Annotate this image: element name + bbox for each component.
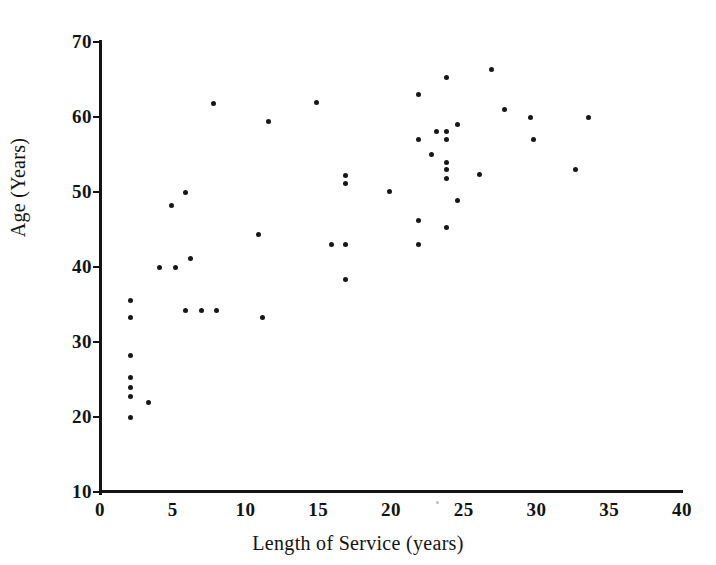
data-point — [128, 394, 133, 399]
x-axis-tick-label: 10 — [236, 500, 256, 519]
data-point — [531, 137, 536, 142]
data-point — [183, 190, 188, 195]
data-point — [199, 308, 204, 313]
data-point — [444, 167, 449, 172]
data-point — [343, 242, 348, 247]
x-axis-tick-label: 20 — [381, 500, 401, 519]
data-point — [211, 101, 216, 106]
y-axis-tick-labels: 10203040506070 — [44, 0, 92, 565]
data-point — [444, 160, 449, 165]
y-axis-tick-label: 40 — [72, 257, 92, 276]
data-point — [455, 198, 460, 203]
data-point — [146, 400, 151, 405]
data-point — [343, 277, 348, 282]
data-point — [528, 115, 533, 120]
data-point — [188, 256, 193, 261]
y-axis-tick-label: 10 — [72, 482, 92, 501]
data-point — [183, 308, 188, 313]
data-point — [502, 107, 507, 112]
data-point — [343, 181, 348, 186]
data-point — [444, 225, 449, 230]
y-axis-tick — [93, 191, 100, 193]
data-point — [128, 375, 133, 380]
y-axis-tick-label: 20 — [72, 407, 92, 426]
x-axis-title: Length of Service (years) — [0, 532, 716, 555]
x-axis-tick-label: 25 — [454, 500, 474, 519]
scan-artifact-speck — [436, 501, 439, 504]
data-point — [455, 122, 460, 127]
data-point — [157, 265, 162, 270]
data-point — [128, 415, 133, 420]
x-axis-tick-label: 40 — [672, 500, 692, 519]
data-point — [314, 100, 319, 105]
x-axis-tick-label: 15 — [308, 500, 328, 519]
data-point — [416, 137, 421, 142]
data-point — [444, 129, 449, 134]
y-axis-tick-label: 60 — [72, 107, 92, 126]
plot-area — [100, 42, 682, 492]
data-point — [329, 242, 334, 247]
data-point — [444, 137, 449, 142]
y-axis-tick — [93, 266, 100, 268]
y-axis-tick — [93, 41, 100, 43]
data-point — [387, 189, 392, 194]
data-point — [128, 298, 133, 303]
y-axis-tick-label: 50 — [72, 182, 92, 201]
data-point — [489, 67, 494, 72]
y-axis-tick-label: 30 — [72, 332, 92, 351]
data-point — [173, 265, 178, 270]
y-axis-tick — [93, 116, 100, 118]
data-point — [416, 218, 421, 223]
data-point — [573, 167, 578, 172]
data-point — [128, 315, 133, 320]
data-point — [266, 119, 271, 124]
x-axis-tick-label: 30 — [527, 500, 547, 519]
data-point — [586, 115, 591, 120]
data-point — [214, 308, 219, 313]
data-point — [434, 129, 439, 134]
data-point — [416, 92, 421, 97]
data-point — [444, 176, 449, 181]
y-axis-title: Age (Years) — [7, 88, 30, 288]
scatter-plot-figure: 10203040506070 0510152025303540 Length o… — [0, 0, 716, 565]
x-axis-tick-label: 0 — [95, 500, 105, 519]
data-point — [416, 242, 421, 247]
data-point — [444, 75, 449, 80]
x-axis-tick-label: 35 — [599, 500, 619, 519]
data-point — [128, 353, 133, 358]
data-point — [260, 315, 265, 320]
data-point — [343, 173, 348, 178]
data-point — [128, 385, 133, 390]
y-axis-tick — [93, 341, 100, 343]
y-axis-tick-label: 70 — [72, 32, 92, 51]
data-point — [477, 172, 482, 177]
x-axis-tick-labels: 0510152025303540 — [0, 500, 716, 530]
x-axis-tick-label: 5 — [168, 500, 178, 519]
data-point — [429, 152, 434, 157]
data-point — [169, 203, 174, 208]
y-axis-tick — [93, 416, 100, 418]
y-axis-tick — [93, 491, 100, 493]
data-point — [256, 232, 261, 237]
